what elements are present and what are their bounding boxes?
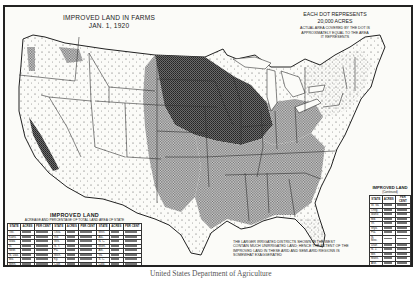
state-cell: Minn.: [8, 262, 21, 267]
side-table-body: W. Va.Oreg.IdahoMd.Vt.Wyo.Fla.N. Mex.Uta…: [370, 204, 411, 268]
legend-line1: EACH DOT REPRESENTS: [300, 11, 370, 18]
header-percent: PER CENT: [395, 196, 410, 204]
map-title-block: IMPROVED LAND IN FARMS JAN. 1, 1920: [49, 14, 169, 30]
table-row: Md.: [370, 217, 411, 222]
legend-line2: 20,000 ACRES: [300, 18, 370, 25]
acres-cell: [65, 267, 79, 268]
acres-cell: [21, 262, 35, 267]
percent-cell: [395, 266, 410, 268]
state-cell: Calif.: [53, 262, 66, 267]
header-acres: ACRES: [21, 224, 35, 231]
state-cell: N. H.: [370, 266, 383, 268]
table-row: OhioGa.Wash.: [8, 267, 142, 268]
map-title: IMPROVED LAND IN FARMS: [49, 14, 169, 22]
improved-land-grid: STATE ACRES PER CENT STATE ACRES PER CEN…: [7, 223, 142, 267]
state-cell: N. Mex.: [370, 235, 383, 243]
header-percent: PER CENT: [34, 224, 52, 231]
state-cell: Ohio: [8, 267, 21, 268]
table-body: Tex.Okla.Miss.Kans.Ind.Ala.IowaWis.N. C.…: [8, 231, 142, 268]
source-credit: United States Department of Agriculture: [150, 269, 416, 278]
state-cell: Ga.: [53, 267, 66, 268]
percent-cell: [79, 262, 97, 267]
irrigation-footnote: THE LARGER IRRIGATED DISTRICTS SHOWN IN …: [233, 240, 351, 258]
table-row: Minn.Calif.Colo.: [8, 262, 142, 267]
table-subtitle: ACREAGE AND PERCENTAGE OF TOTAL LAND ARE…: [7, 218, 142, 222]
table-row: N. Mex.: [370, 235, 411, 243]
side-grid: STATE ACRES PER CENT W. Va.Oreg.IdahoMd.…: [369, 195, 411, 267]
map-date: JAN. 1, 1920: [49, 22, 169, 30]
table-header-row: STATE ACRES PER CENT STATE ACRES PER CEN…: [8, 224, 142, 231]
table-row: N. H.: [370, 266, 411, 268]
state-cell: Colo.: [97, 262, 110, 267]
state-cell: Wash.: [97, 267, 110, 268]
side-table-subtitle: (Continued): [369, 190, 411, 194]
improved-land-table: IMPROVED LAND ACREAGE AND PERCENTAGE OF …: [7, 212, 142, 267]
legend-note: ACTUAL AREA COVERED BY THE DOT IS APPROX…: [300, 26, 370, 40]
map-frame: IMPROVED LAND IN FARMS JAN. 1, 1920 EACH…: [3, 5, 413, 267]
table-row: Fla.: [370, 231, 411, 236]
acres-cell: [109, 262, 123, 267]
acres-cell: [382, 266, 395, 268]
percent-cell: [34, 262, 52, 267]
header-percent: PER CENT: [123, 224, 141, 231]
percent-cell: [79, 267, 97, 268]
percent-cell: [395, 235, 410, 243]
acres-cell: [382, 235, 395, 243]
header-percent: PER CENT: [79, 224, 97, 231]
acres-cell: [109, 267, 123, 268]
percent-cell: [123, 262, 141, 267]
header-acres: ACRES: [109, 224, 123, 231]
acres-cell: [21, 267, 35, 268]
dot-legend: EACH DOT REPRESENTS 20,000 ACRES ACTUAL …: [300, 11, 370, 40]
improved-land-table-continued: IMPROVED LAND (Continued) STATE ACRES PE…: [369, 185, 411, 267]
acres-cell: [65, 262, 79, 267]
percent-cell: [34, 267, 52, 268]
header-acres: ACRES: [65, 224, 79, 231]
percent-cell: [123, 267, 141, 268]
header-acres: ACRES: [382, 196, 395, 204]
